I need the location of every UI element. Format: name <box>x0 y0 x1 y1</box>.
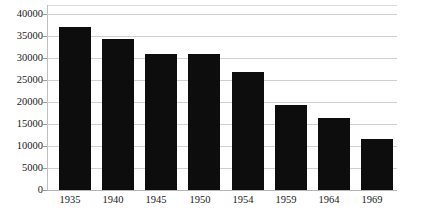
x-axis-tick-label: 1935 <box>48 195 92 206</box>
y-axis-tick <box>43 102 47 103</box>
bar-1940 <box>102 39 134 190</box>
y-axis-tick <box>43 190 47 191</box>
bar-chart: 40000 35000 30000 25000 20000 15000 1000… <box>0 0 428 224</box>
x-axis-tick-label: 1950 <box>178 195 222 206</box>
y-axis-tick <box>43 80 47 81</box>
y-axis-tick-label: 35000 <box>17 31 43 42</box>
y-axis-tick-label: 5000 <box>22 163 43 174</box>
x-axis-tick-label: 1954 <box>221 195 265 206</box>
y-axis-tick-label: 40000 <box>17 9 43 20</box>
y-axis-tick <box>43 36 47 37</box>
bar-1969 <box>361 139 393 190</box>
bar-1959 <box>275 105 307 190</box>
x-axis-tick-label: 1940 <box>91 195 135 206</box>
x-axis-tick-label: 1945 <box>134 195 178 206</box>
y-axis-tick <box>43 146 47 147</box>
bar-1945 <box>145 54 177 190</box>
y-axis-tick-label: 30000 <box>17 53 43 64</box>
y-axis-tick <box>43 58 47 59</box>
bar-1964 <box>318 118 350 190</box>
bars-layer <box>48 5 397 190</box>
bar-1935 <box>59 27 91 190</box>
y-axis-tick <box>43 124 47 125</box>
x-axis-tick-label: 1959 <box>264 195 308 206</box>
y-axis-tick-label: 25000 <box>17 75 43 86</box>
y-axis-tick-label: 15000 <box>17 119 43 130</box>
bar-1950 <box>188 54 220 190</box>
y-axis-tick-label: 20000 <box>17 97 43 108</box>
y-axis-tick <box>43 14 47 15</box>
y-axis-tick <box>43 168 47 169</box>
x-axis-tick-label: 1969 <box>350 195 394 206</box>
gridline-0-baseline <box>47 190 397 191</box>
x-axis-tick-label: 1964 <box>307 195 351 206</box>
y-axis-labels: 40000 35000 30000 25000 20000 15000 1000… <box>0 0 43 224</box>
y-axis-tick-label: 10000 <box>17 141 43 152</box>
bar-1954 <box>232 72 264 190</box>
